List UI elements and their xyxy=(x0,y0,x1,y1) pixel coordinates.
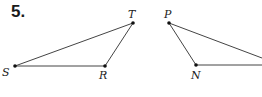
vertex-r-point xyxy=(103,64,107,68)
segment-st xyxy=(15,23,133,66)
vertex-p-label: P xyxy=(163,8,172,21)
vertex-s-point xyxy=(13,64,17,68)
segment-rt xyxy=(105,23,133,66)
vertex-t-label: T xyxy=(128,8,137,21)
vertex-s-label: S xyxy=(2,66,10,79)
triangle-pn: P N xyxy=(163,8,262,82)
triangle-diagram: S R T P N xyxy=(0,0,262,97)
vertex-p-point xyxy=(167,21,171,25)
segment-p-right xyxy=(169,23,262,58)
vertex-t-point xyxy=(131,21,135,25)
segment-pn xyxy=(169,23,196,65)
vertex-n-label: N xyxy=(190,69,201,82)
vertex-n-point xyxy=(194,63,198,67)
triangle-str: S R T xyxy=(2,8,137,82)
vertex-r-label: R xyxy=(98,69,107,82)
